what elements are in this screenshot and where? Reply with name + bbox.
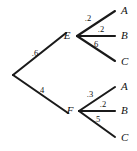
- leaf-label-F-C: C: [121, 131, 129, 143]
- edge-F-to-A: [79, 87, 115, 111]
- leaf-label-E-C: C: [121, 55, 129, 67]
- tree-diagram-canvas: E F A B C A B C .6 .4 .2 .2 .6 .3 .2 .5: [0, 0, 137, 151]
- root-branches: [13, 33, 68, 113]
- leaf-label-E-B: B: [121, 29, 128, 41]
- weight-E-B: .2: [98, 24, 104, 34]
- E-branches: [77, 11, 115, 61]
- probability-tree-figure: E F A B C A B C .6 .4 .2 .2 .6 .3 .2 .5: [0, 0, 137, 151]
- weight-F-A: .3: [87, 89, 93, 99]
- node-label-E: E: [63, 29, 71, 41]
- weight-E-A: .2: [85, 13, 91, 23]
- weight-root-E: .6: [32, 48, 38, 58]
- F-branches: [79, 87, 115, 137]
- leaf-label-E-A: A: [120, 4, 128, 16]
- node-label-F: F: [66, 104, 74, 116]
- leaf-label-F-B: B: [121, 104, 128, 116]
- weight-root-F: .4: [38, 85, 45, 95]
- weight-F-C: .5: [94, 114, 100, 124]
- weight-F-B: .2: [100, 99, 106, 109]
- leaf-label-F-A: A: [120, 80, 128, 92]
- edge-root-to-E: [13, 33, 66, 75]
- weight-E-C: .6: [92, 39, 98, 49]
- edge-E-to-A: [77, 11, 115, 36]
